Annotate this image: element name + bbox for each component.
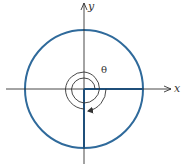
angle-diagram: y x θ [0,0,182,165]
spiral-arrowhead [88,89,106,111]
angle-spiral [66,72,100,103]
angle-label: θ [101,64,107,75]
angle-spiral-outer [65,89,84,109]
x-axis-label: x [174,82,181,95]
y-axis-label: y [87,0,95,13]
